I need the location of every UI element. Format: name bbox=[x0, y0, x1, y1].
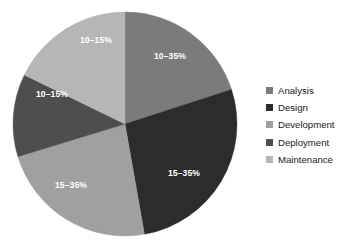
pie-slice-label-design: 15–35% bbox=[168, 168, 200, 178]
legend-item-analysis[interactable]: Analysis bbox=[266, 82, 350, 99]
pie-slice-label-maintenance: 10–15% bbox=[80, 35, 112, 45]
legend-item-development[interactable]: Development bbox=[266, 116, 350, 133]
pie-slice-label-development: 15–35% bbox=[55, 180, 87, 190]
legend-swatch-icon-development bbox=[266, 121, 273, 128]
pie-slice-label-deployment: 10–15% bbox=[36, 89, 68, 99]
legend-swatch-icon-maintenance bbox=[266, 156, 273, 163]
legend-item-label: Deployment bbox=[278, 134, 329, 151]
pie-slice-label-analysis: 10–35% bbox=[154, 51, 186, 61]
pie-slice-group bbox=[13, 12, 237, 236]
legend-swatch-icon-design bbox=[266, 104, 273, 111]
pie-chart-figure: 10–35%15–35%15–35%10–15%10–15% AnalysisD… bbox=[0, 0, 350, 242]
legend-item-label: Design bbox=[278, 99, 308, 116]
legend-item-label: Analysis bbox=[278, 82, 314, 99]
legend-item-deployment[interactable]: Deployment bbox=[266, 134, 350, 151]
legend-item-label: Maintenance bbox=[278, 151, 333, 168]
legend-swatch-icon-analysis bbox=[266, 87, 273, 94]
legend-item-maintenance[interactable]: Maintenance bbox=[266, 151, 350, 168]
legend-item-label: Development bbox=[278, 116, 335, 133]
chart-legend: AnalysisDesignDevelopmentDeploymentMaint… bbox=[266, 82, 350, 168]
legend-item-design[interactable]: Design bbox=[266, 99, 350, 116]
legend-swatch-icon-deployment bbox=[266, 139, 273, 146]
